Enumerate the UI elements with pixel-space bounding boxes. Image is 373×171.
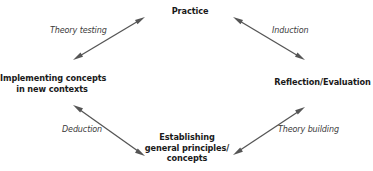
- arrowhead-icon: [135, 17, 145, 24]
- arrow-induction: [233, 17, 305, 60]
- node-line: Practice: [160, 6, 220, 17]
- node-line: Establishing: [140, 132, 234, 143]
- edge-label-theory-testing: Theory testing: [50, 26, 107, 36]
- edge-label-deduction: Deduction: [62, 125, 102, 135]
- arrowhead-icon: [73, 53, 83, 61]
- node-line: in new contexts: [0, 84, 104, 95]
- node-line: Reflection/Evaluation: [272, 77, 373, 88]
- arrow-theory-testing: [73, 17, 145, 60]
- arrowhead-icon: [295, 53, 305, 61]
- node-line: general principles/: [140, 143, 234, 154]
- node-line: concepts: [140, 153, 234, 164]
- node-practice: Practice: [160, 6, 220, 17]
- node-line: Implementing concepts: [0, 73, 104, 84]
- node-implementing-concepts: Implementing concepts in new contexts: [0, 73, 104, 94]
- arrowhead-icon: [233, 17, 243, 24]
- edge-label-induction: Induction: [272, 26, 308, 36]
- node-reflection-evaluation: Reflection/Evaluation: [272, 77, 373, 88]
- edge-label-theory-building: Theory building: [278, 125, 339, 135]
- node-establishing-principles: Establishing general principles/ concept…: [140, 132, 234, 164]
